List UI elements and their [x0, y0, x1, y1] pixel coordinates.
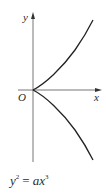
y-axis-label: y — [23, 12, 28, 23]
curve-upper-branch — [33, 20, 93, 90]
equation-rhs-coefficient: ax — [33, 173, 45, 188]
y-axis-arrow-icon — [31, 12, 35, 19]
equation-rhs-exponent: 3 — [45, 173, 49, 181]
curve-lower-branch — [33, 90, 93, 160]
equation-caption: y2=ax3 — [10, 173, 48, 189]
origin-label: O — [18, 92, 26, 103]
x-axis-label: x — [94, 92, 99, 103]
diagram-canvas — [0, 0, 106, 195]
equation-equals: = — [19, 173, 32, 188]
